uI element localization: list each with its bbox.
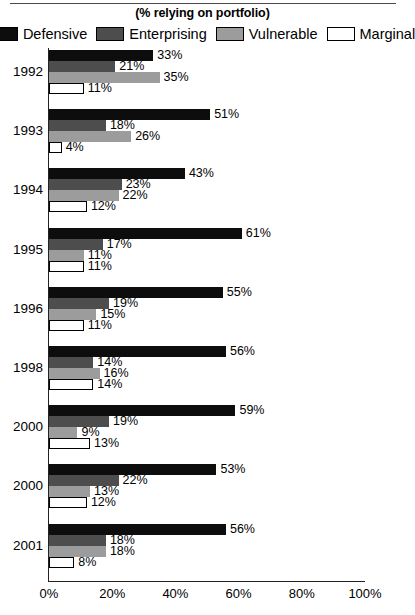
bar-row: 33% bbox=[49, 50, 365, 61]
bar-row: 59% bbox=[49, 405, 365, 416]
bar-marginal bbox=[49, 320, 84, 331]
bar-value-label: 14% bbox=[97, 378, 122, 391]
bar-enterprising bbox=[49, 535, 106, 546]
bar-row: 8% bbox=[49, 557, 365, 568]
bar-row: 11% bbox=[49, 320, 365, 331]
bar-marginal bbox=[49, 557, 74, 568]
bar-row: 18% bbox=[49, 546, 365, 557]
legend-label-defensive: Defensive bbox=[23, 27, 87, 42]
x-tick-label: 60% bbox=[226, 587, 252, 600]
bar-row: 4% bbox=[49, 142, 365, 153]
bar-value-label: 4% bbox=[66, 141, 84, 154]
bar-enterprising bbox=[49, 357, 93, 368]
bar-row: 61% bbox=[49, 228, 365, 239]
bar-row: 53% bbox=[49, 464, 365, 475]
year-label: 1998 bbox=[0, 361, 43, 375]
bar-group: 200156%18%18%8% bbox=[0, 524, 405, 568]
bar-marginal bbox=[49, 201, 87, 212]
bar-value-label: 11% bbox=[88, 260, 112, 273]
bar-marginal bbox=[49, 438, 90, 449]
bar-value-label: 12% bbox=[91, 496, 116, 509]
bar-vulnerable bbox=[49, 368, 100, 379]
chart-title: (% relying on portfolio) bbox=[0, 6, 405, 20]
year-label: 1992 bbox=[0, 65, 43, 79]
bar-marginal bbox=[49, 142, 62, 153]
legend-label-marginal: Marginal bbox=[360, 27, 415, 42]
bar-enterprising bbox=[49, 120, 106, 131]
chart-legend: Defensive Enterprising Vulnerable Margin… bbox=[0, 24, 405, 44]
bar-enterprising bbox=[49, 61, 115, 72]
bar-vulnerable bbox=[49, 131, 131, 142]
bar-row: 11% bbox=[49, 261, 365, 272]
bar-row: 18% bbox=[49, 120, 365, 131]
bar-value-label: 13% bbox=[94, 437, 119, 450]
bar-row: 14% bbox=[49, 357, 365, 368]
year-label: 1996 bbox=[0, 302, 43, 316]
bar-row: 56% bbox=[49, 524, 365, 535]
bar-defensive bbox=[49, 524, 226, 535]
bar-value-label: 8% bbox=[78, 556, 96, 569]
bar-vulnerable bbox=[49, 427, 77, 438]
bar-enterprising bbox=[49, 179, 122, 190]
bar-value-label: 12% bbox=[91, 200, 116, 213]
bar-marginal bbox=[49, 379, 93, 390]
bar-row: 12% bbox=[49, 201, 365, 212]
bar-marginal bbox=[49, 261, 84, 272]
x-tick-label: 100% bbox=[348, 587, 381, 600]
year-label: 2000 bbox=[0, 420, 43, 434]
year-label: 1993 bbox=[0, 124, 43, 138]
plot-area: 199233%21%35%11%199351%18%26%4%199443%23… bbox=[0, 48, 405, 586]
bar-marginal bbox=[49, 83, 84, 94]
bar-row: 14% bbox=[49, 379, 365, 390]
bar-row: 55% bbox=[49, 287, 365, 298]
year-label: 2001 bbox=[0, 539, 43, 553]
legend-item-enterprising: Enterprising bbox=[96, 27, 206, 42]
x-tick-label: 20% bbox=[99, 587, 125, 600]
bar-row: 13% bbox=[49, 438, 365, 449]
bar-row: 51% bbox=[49, 109, 365, 120]
bar-defensive bbox=[49, 228, 242, 239]
bar-defensive bbox=[49, 405, 235, 416]
legend-swatch-marginal bbox=[327, 27, 355, 41]
bar-group: 200059%19%9%13% bbox=[0, 405, 405, 449]
year-label: 1995 bbox=[0, 243, 43, 257]
bar-group: 199561%17%11%11% bbox=[0, 228, 405, 272]
legend-label-enterprising: Enterprising bbox=[129, 27, 206, 42]
year-label: 1994 bbox=[0, 183, 43, 197]
bar-row: 18% bbox=[49, 535, 365, 546]
bar-row: 19% bbox=[49, 298, 365, 309]
top-divider bbox=[10, 3, 396, 4]
bar-defensive bbox=[49, 346, 226, 357]
bar-group: 199233%21%35%11% bbox=[0, 50, 405, 94]
bar-group: 200053%22%13%12% bbox=[0, 464, 405, 508]
bar-row: 26% bbox=[49, 131, 365, 142]
legend-label-vulnerable: Vulnerable bbox=[249, 27, 318, 42]
legend-swatch-vulnerable bbox=[216, 27, 244, 41]
bar-group: 199351%18%26%4% bbox=[0, 109, 405, 153]
x-tick-label: 80% bbox=[289, 587, 315, 600]
legend-item-defensive: Defensive bbox=[0, 27, 87, 42]
bar-value-label: 11% bbox=[88, 319, 112, 332]
legend-swatch-enterprising bbox=[96, 27, 124, 41]
bar-enterprising bbox=[49, 416, 109, 427]
bar-group: 199443%23%22%12% bbox=[0, 168, 405, 212]
bar-value-label: 11% bbox=[88, 82, 112, 95]
bar-vulnerable bbox=[49, 486, 90, 497]
bar-group: 199655%19%15%11% bbox=[0, 287, 405, 331]
bar-group: 199856%14%16%14% bbox=[0, 346, 405, 390]
bar-marginal bbox=[49, 497, 87, 508]
bar-vulnerable bbox=[49, 250, 84, 261]
bar-row: 23% bbox=[49, 179, 365, 190]
x-axis-ticks: 0%20%40%60%80%100% bbox=[0, 582, 405, 604]
bar-row: 43% bbox=[49, 168, 365, 179]
legend-item-marginal: Marginal bbox=[327, 27, 415, 42]
year-label: 2000 bbox=[0, 479, 43, 493]
legend-item-vulnerable: Vulnerable bbox=[216, 27, 318, 42]
bar-row: 11% bbox=[49, 83, 365, 94]
x-tick-label: 40% bbox=[162, 587, 188, 600]
bar-defensive bbox=[49, 168, 185, 179]
x-tick-label: 0% bbox=[40, 587, 59, 600]
legend-swatch-defensive bbox=[0, 27, 18, 41]
bar-row: 12% bbox=[49, 497, 365, 508]
